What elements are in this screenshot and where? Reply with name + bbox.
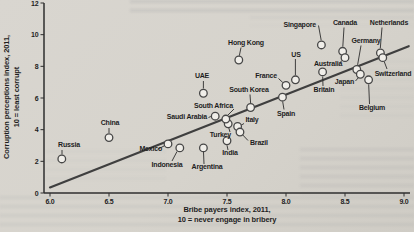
country-label-south-korea: South Korea xyxy=(229,86,269,93)
leader-line-spain xyxy=(283,102,284,110)
data-point-australia xyxy=(341,54,349,62)
data-point-switzerland xyxy=(379,54,387,62)
y-axis-title: Corruption perceptions index, 2011, 10 =… xyxy=(2,7,22,187)
country-label-germany: Germany xyxy=(352,37,381,45)
data-point-singapore xyxy=(318,41,326,49)
leader-line-indonesia xyxy=(172,152,177,162)
x-axis-title: Bribe payers index, 2011, 10 = never eng… xyxy=(44,205,410,225)
country-label-indonesia: Indonesia xyxy=(152,161,183,168)
leader-line-brazil xyxy=(243,135,248,141)
x-axis-title-line1: Bribe payers index, 2011, xyxy=(44,205,410,215)
country-label-switzerland: Switzerland xyxy=(375,70,412,77)
scanned-scatter-figure: 6.06.57.07.58.08.59.0024681012RussiaChin… xyxy=(0,0,414,232)
data-point-france xyxy=(282,82,290,90)
x-tick-label-9.0: 9.0 xyxy=(399,198,408,205)
country-label-us: US xyxy=(291,51,301,58)
country-label-turkey: Turkey xyxy=(210,131,232,139)
data-point-saudi-arabia xyxy=(211,112,219,120)
country-label-uae: UAE xyxy=(195,72,210,79)
country-label-spain: Spain xyxy=(277,110,295,118)
x-tick-label-8.5: 8.5 xyxy=(340,198,349,205)
country-label-australia: Australia xyxy=(314,60,342,67)
y-tick-label-12: 12 xyxy=(31,0,39,7)
country-label-saudi-arabia: Saudi Arabia xyxy=(167,113,207,120)
country-label-singapore: Singapore xyxy=(284,21,317,29)
data-point-hong-kong xyxy=(235,56,243,64)
data-point-britain xyxy=(319,68,327,76)
country-label-netherlands: Netherlands xyxy=(370,19,409,26)
data-point-south-africa xyxy=(222,115,230,123)
y-axis-title-line1: Corruption perceptions index, 2011, xyxy=(2,7,12,187)
data-point-brazil xyxy=(236,128,244,136)
data-point-mexico xyxy=(164,140,172,148)
country-label-france: France xyxy=(255,72,277,79)
data-point-belgium xyxy=(365,76,373,84)
data-point-japan xyxy=(357,70,365,78)
country-label-canada: Canada xyxy=(333,19,357,26)
y-tick-label-0: 0 xyxy=(35,190,39,197)
data-point-south-korea xyxy=(247,104,255,112)
leader-line-france xyxy=(279,79,283,83)
country-label-argentina: Argentina xyxy=(192,163,223,171)
leader-line-south-korea xyxy=(250,95,251,104)
y-tick-label-6: 6 xyxy=(35,95,39,102)
y-tick-label-4: 4 xyxy=(35,126,39,133)
data-point-us xyxy=(292,76,300,84)
country-label-brazil: Brazil xyxy=(250,139,268,146)
x-tick-label-7.0: 7.0 xyxy=(163,198,172,205)
leader-line-canada xyxy=(343,28,344,47)
x-tick-label-7.5: 7.5 xyxy=(222,198,231,205)
data-point-uae xyxy=(200,89,208,97)
country-label-india: India xyxy=(222,149,238,156)
data-point-india xyxy=(223,137,231,145)
country-label-russia: Russia xyxy=(58,141,80,148)
data-point-china xyxy=(105,134,113,142)
country-label-britain: Britain xyxy=(314,86,335,93)
country-label-hong-kong: Hong Kong xyxy=(228,39,264,47)
y-tick-label-8: 8 xyxy=(35,63,39,70)
y-tick-label-2: 2 xyxy=(35,158,39,165)
scatter-plot-svg: 6.06.57.07.58.08.59.0024681012RussiaChin… xyxy=(0,0,414,232)
country-label-mexico: Mexico xyxy=(139,145,162,152)
data-point-argentina xyxy=(200,144,208,152)
country-label-italy: Italy xyxy=(246,116,259,124)
country-label-china: China xyxy=(101,119,120,126)
leader-line-hong-kong xyxy=(239,48,241,56)
leader-line-netherlands xyxy=(380,28,382,49)
leader-line-singapore xyxy=(319,26,322,41)
country-label-south-africa: South Africa xyxy=(194,102,233,109)
country-label-belgium: Belgium xyxy=(359,104,385,112)
leader-line-saudi-arabia xyxy=(209,117,211,118)
leader-line-germany xyxy=(358,46,361,65)
y-axis-title-line2: 10 = least corrupt xyxy=(12,7,22,187)
data-point-spain xyxy=(279,93,287,101)
data-point-russia xyxy=(58,155,66,163)
x-tick-label-6.5: 6.5 xyxy=(104,198,113,205)
leader-line-belgium xyxy=(369,84,370,104)
data-point-indonesia xyxy=(176,144,184,152)
x-axis-title-line2: 10 = never engage in bribery xyxy=(44,215,410,225)
y-tick-label-10: 10 xyxy=(31,31,39,38)
leader-line-switzerland xyxy=(384,62,387,70)
x-tick-label-6.0: 6.0 xyxy=(45,198,54,205)
x-tick-label-8.0: 8.0 xyxy=(281,198,290,205)
country-label-japan: Japan xyxy=(335,78,354,86)
